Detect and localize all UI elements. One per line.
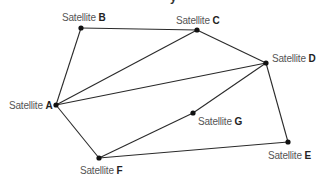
label-prefix: Satellite xyxy=(198,116,232,127)
node-satellite-d xyxy=(263,60,268,65)
label-prefix: Satellite xyxy=(268,150,302,161)
label-satellite-c: Satellite C xyxy=(176,15,219,26)
node-satellite-c xyxy=(194,27,199,32)
label-prefix: Satellite xyxy=(176,15,210,26)
edge-d-e xyxy=(266,63,288,142)
label-letter: E xyxy=(304,150,310,161)
edge-b-c xyxy=(81,28,197,30)
node-satellite-f xyxy=(96,155,101,160)
label-satellite-b: Satellite B xyxy=(62,12,105,23)
label-satellite-e: Satellite E xyxy=(268,150,311,161)
label-letter: D xyxy=(308,53,315,64)
label-letter: G xyxy=(234,116,242,127)
network-edges xyxy=(56,28,288,158)
label-prefix: Satellite xyxy=(272,53,306,64)
label-letter: A xyxy=(45,100,52,111)
label-prefix: Satellite xyxy=(80,165,114,176)
label-letter: B xyxy=(98,12,105,23)
edge-c-d xyxy=(197,30,266,63)
node-satellite-g xyxy=(190,110,195,115)
node-satellite-b xyxy=(78,25,83,30)
node-satellite-a xyxy=(53,102,58,107)
label-satellite-g: Satellite G xyxy=(198,116,242,127)
network-nodes xyxy=(53,25,290,160)
edge-a-f xyxy=(56,105,99,158)
label-satellite-f: Satellite F xyxy=(80,165,122,176)
label-prefix: Satellite xyxy=(62,12,96,23)
label-satellite-a: Satellite A xyxy=(9,100,52,111)
label-prefix: Satellite xyxy=(9,100,43,111)
label-letter: F xyxy=(116,165,122,176)
node-satellite-e xyxy=(285,139,290,144)
label-letter: C xyxy=(212,15,219,26)
label-satellite-d: Satellite D xyxy=(272,53,315,64)
